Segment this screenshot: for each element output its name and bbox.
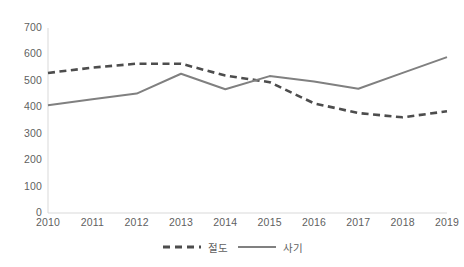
x-tick-label: 2018: [381, 216, 425, 228]
axis-lines: [48, 28, 447, 213]
legend-label: 사기: [283, 240, 303, 255]
line-chart: 0100200300400500600700 20102011201220132…: [0, 0, 464, 267]
legend-entry[interactable]: 사기: [237, 240, 303, 255]
x-tick-label: 2013: [159, 216, 203, 228]
y-tick-label: 400: [4, 100, 42, 112]
series-line-1: [48, 57, 447, 105]
series-layer: [48, 57, 447, 117]
legend-dashed-line-icon: [162, 242, 202, 252]
y-tick-label: 700: [4, 21, 42, 33]
legend-solid-line-icon: [237, 242, 277, 252]
x-tick-label: 2014: [203, 216, 247, 228]
x-tick-label: 2016: [292, 216, 336, 228]
y-tick-label: 300: [4, 127, 42, 139]
x-tick-label: 2015: [248, 216, 292, 228]
chart-legend: 절도사기: [0, 236, 464, 258]
y-tick-label: 200: [4, 153, 42, 165]
series-line-0: [48, 64, 447, 118]
y-tick-label: 600: [4, 47, 42, 59]
x-tick-label: 2017: [336, 216, 380, 228]
y-tick-label: 500: [4, 74, 42, 86]
x-tick-label: 2011: [70, 216, 114, 228]
x-tick-label: 2012: [115, 216, 159, 228]
legend-label: 절도: [208, 240, 228, 255]
legend-entry[interactable]: 절도: [162, 240, 228, 255]
y-tick-label: 100: [4, 180, 42, 192]
x-tick-label: 2019: [425, 216, 464, 228]
x-tick-label: 2010: [26, 216, 70, 228]
